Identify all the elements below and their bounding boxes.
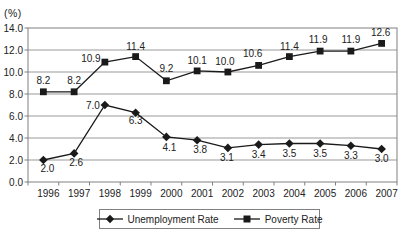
series-line-poverty-rate	[43, 43, 381, 91]
data-point-marker-unemployment-rate	[285, 139, 294, 148]
data-point-label-poverty-rate: 11.9	[342, 34, 361, 45]
data-point-marker-unemployment-rate	[101, 101, 110, 110]
data-point-label-unemployment-rate: 3.3	[344, 150, 358, 161]
x-axis-tick-label: 2001	[191, 188, 214, 199]
data-point-marker-unemployment-rate	[316, 139, 325, 148]
data-point-marker-poverty-rate	[101, 59, 108, 66]
data-point-label-unemployment-rate: 3.5	[313, 148, 327, 159]
data-point-marker-poverty-rate	[132, 53, 139, 60]
data-point-label-unemployment-rate: 4.1	[162, 142, 176, 153]
data-point-label-unemployment-rate: 3.4	[252, 149, 266, 160]
line-chart-svg: 0.02.04.06.08.010.012.014.01996199719981…	[0, 0, 401, 204]
x-axis-tick-label: 2006	[345, 188, 368, 199]
legend-label-poverty-rate: Poverty Rate	[265, 214, 323, 225]
data-point-label-unemployment-rate: 3.1	[220, 152, 234, 163]
data-point-marker-poverty-rate	[255, 62, 262, 69]
data-point-marker-poverty-rate	[71, 88, 78, 95]
y-axis-tick-label: 12.0	[4, 45, 24, 56]
data-point-label-unemployment-rate: 6.3	[129, 115, 143, 126]
chart-legend: Unemployment Rate Poverty Rate	[99, 209, 320, 229]
x-axis-tick-label: 1998	[99, 188, 122, 199]
x-axis-tick-label: 2003	[253, 188, 276, 199]
data-point-label-poverty-rate: 10.1	[187, 55, 207, 66]
square-line-marker-icon	[234, 214, 260, 224]
data-point-label-poverty-rate: 10.6	[243, 48, 263, 59]
x-axis-tick-label: 2007	[376, 188, 399, 199]
data-point-marker-poverty-rate	[286, 53, 293, 60]
data-point-label-unemployment-rate: 3.5	[282, 148, 296, 159]
data-point-label-poverty-rate: 11.9	[309, 34, 328, 45]
x-axis-tick-label: 2002	[222, 188, 245, 199]
data-point-label-poverty-rate: 8.2	[36, 75, 50, 86]
legend-label-unemployment-rate: Unemployment Rate	[128, 214, 219, 225]
x-axis-tick-label: 2000	[160, 188, 183, 199]
x-axis-tick-label: 1999	[130, 188, 153, 199]
y-axis-tick-label: 6.0	[9, 111, 23, 122]
x-axis-tick-label: 2004	[283, 188, 306, 199]
y-axis-tick-label: 14.0	[4, 23, 24, 34]
data-point-label-poverty-rate: 10.0	[215, 56, 235, 67]
data-point-label-unemployment-rate: 2.0	[40, 163, 54, 174]
data-point-marker-unemployment-rate	[377, 145, 386, 154]
data-point-label-unemployment-rate: 2.6	[69, 157, 83, 168]
y-axis-tick-label: 0.0	[9, 177, 23, 188]
data-point-label-poverty-rate: 12.6	[371, 27, 391, 38]
data-point-marker-poverty-rate	[347, 48, 354, 55]
data-point-label-unemployment-rate: 3.0	[375, 153, 389, 164]
data-point-marker-poverty-rate	[224, 69, 231, 76]
data-point-label-poverty-rate: 8.2	[67, 75, 81, 86]
y-axis-tick-label: 4.0	[9, 133, 23, 144]
data-point-marker-poverty-rate	[317, 48, 324, 55]
x-axis-tick-label: 2005	[314, 188, 337, 199]
data-point-label-poverty-rate: 10.9	[81, 53, 101, 64]
data-point-marker-poverty-rate	[194, 68, 201, 75]
x-axis-tick-label: 1997	[68, 188, 91, 199]
chart-container: (%) 0.02.04.06.08.010.012.014.0199619971…	[0, 0, 401, 236]
data-point-label-poverty-rate: 11.4	[280, 41, 299, 52]
x-axis-tick-label: 1996	[37, 188, 60, 199]
data-point-marker-poverty-rate	[378, 40, 385, 47]
y-axis-tick-label: 2.0	[9, 155, 23, 166]
diamond-line-marker-icon	[97, 214, 123, 224]
data-point-label-unemployment-rate: 7.0	[86, 100, 100, 111]
series-line-unemployment-rate	[43, 105, 381, 160]
legend-item-unemployment-rate: Unemployment Rate	[97, 214, 219, 225]
data-point-label-poverty-rate: 11.4	[126, 41, 145, 52]
legend-item-poverty-rate: Poverty Rate	[234, 214, 323, 225]
data-point-marker-poverty-rate	[163, 77, 170, 84]
data-point-label-unemployment-rate: 3.8	[193, 144, 207, 155]
data-point-label-poverty-rate: 9.2	[159, 63, 173, 74]
y-axis-tick-label: 10.0	[4, 67, 24, 78]
y-axis-tick-label: 8.0	[9, 89, 23, 100]
data-point-marker-poverty-rate	[40, 88, 47, 95]
